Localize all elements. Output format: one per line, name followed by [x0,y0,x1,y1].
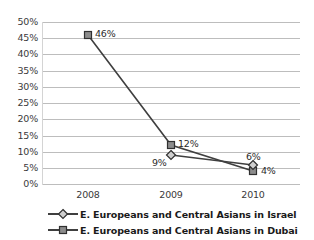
data-label-israel-2010: 6% [246,152,261,162]
series-line-israel [171,155,253,165]
data-label-dubai-2009: 12% [178,139,199,149]
x-tick-2009: 2009 [141,189,201,200]
legend-item-israel[interactable]: E. Europeans and Central Asians in Israe… [0,206,314,222]
data-label-dubai-2008: 46% [95,29,116,39]
marker-israel-2009 [167,151,176,160]
legend-label-dubai: E. Europeans and Central Asians in Dubai [80,225,298,236]
marker-dubai-2009 [168,142,175,149]
legend-item-dubai[interactable]: E. Europeans and Central Asians in Dubai [0,222,314,238]
legend: E. Europeans and Central Asians in Israe… [0,206,314,238]
legend-label-israel: E. Europeans and Central Asians in Israe… [80,209,297,220]
x-tick-2010: 2010 [223,189,283,200]
data-label-israel-2009: 9% [152,158,167,168]
line-chart: 50% 45% 40% 35% 30% 25% 20% 15% 10% 5% 0… [0,0,314,240]
series-layer [0,0,314,240]
legend-marker-diamond-icon [48,207,78,221]
legend-marker-square-icon [48,223,78,237]
data-label-dubai-2010: 4% [261,166,276,176]
x-tick-2008: 2008 [58,189,118,200]
marker-dubai-2008 [85,32,92,39]
